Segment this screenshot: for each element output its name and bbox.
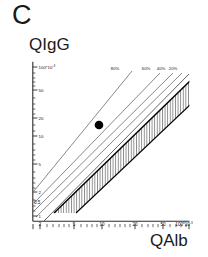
reference-label-40: 40% — [157, 66, 166, 71]
y-axis-title: QIgG — [29, 36, 70, 53]
panel-letter: C — [12, 2, 32, 29]
x-axis-tick-labels: 2 5 10 20 50 100*10-3 — [32, 214, 197, 223]
y-tick-label-20: 20 — [39, 116, 44, 121]
y-tick-label-10: 10 — [39, 134, 44, 139]
y-tick-label-50: 50 — [39, 88, 44, 93]
reiber-quotient-diagram: 80% 60% 40% 20% 100*10-3 50 — [32, 61, 190, 222]
reference-label-60: 60% — [142, 66, 151, 71]
x-tick-label-50: 50 — [160, 222, 166, 227]
reference-label-80: 80% — [111, 66, 120, 71]
x-tick-label-2: 2 — [39, 222, 42, 227]
reference-label-20: 20% — [169, 66, 178, 71]
x-tick-label-5: 5 — [73, 222, 76, 227]
data-point-marker[interactable] — [95, 121, 104, 130]
x-tick-label-10: 10 — [99, 222, 105, 227]
y-tick-label-0point5: 0.5 — [34, 200, 40, 205]
x-tick-label-100: 100*10-3 — [175, 221, 193, 227]
x-tick-label-20: 20 — [132, 222, 138, 227]
